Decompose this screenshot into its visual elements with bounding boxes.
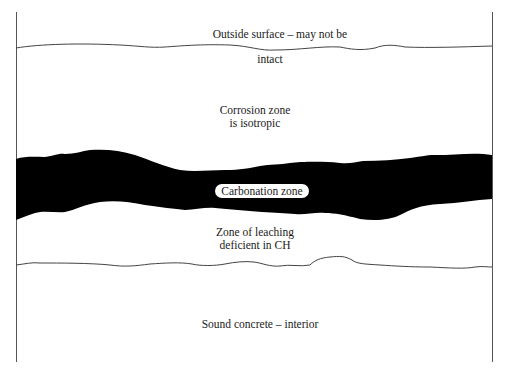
carbonation-zone-label: Carbonation zone <box>215 184 308 198</box>
outside-surface-label-cont: intact <box>230 53 310 66</box>
outside-surface-line <box>16 44 492 50</box>
outside-surface-label-line1: Outside surface – may not be <box>190 28 370 41</box>
outside-surface-label-line2: intact <box>230 53 310 66</box>
leaching-boundary-line <box>16 256 492 268</box>
leaching-zone-label-line2: deficient in CH <box>195 239 315 252</box>
leaching-zone-label: Zone of leaching deficient in CH <box>195 226 315 252</box>
outside-surface-label: Outside surface – may not be <box>190 28 370 41</box>
sound-concrete-label-text: Sound concrete – interior <box>185 318 335 331</box>
carbonation-zone-label-wrap: Carbonation zone <box>215 185 309 198</box>
corrosion-zone-label: Corrosion zone is isotropic <box>195 104 315 130</box>
corrosion-zone-label-line2: is isotropic <box>195 117 315 130</box>
sound-concrete-label: Sound concrete – interior <box>185 318 335 331</box>
corrosion-zone-label-line1: Corrosion zone <box>195 104 315 117</box>
leaching-zone-label-line1: Zone of leaching <box>195 226 315 239</box>
